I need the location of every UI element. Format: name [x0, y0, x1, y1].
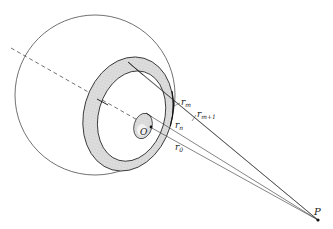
label-origin: O	[140, 127, 148, 137]
fresnel-zone-diagram: rm rm+1 rn r0 O P	[0, 0, 333, 229]
label-r-m1: rm+1	[197, 109, 216, 120]
ray-r-0	[150, 127, 318, 220]
label-r-0: r0	[175, 142, 183, 153]
fresnel-zone-ring	[70, 46, 187, 182]
ray-r-n	[152, 117, 318, 220]
ray-r-m1	[143, 75, 318, 220]
label-r-m: rm	[181, 97, 191, 108]
label-point-p: P	[313, 206, 321, 217]
label-r-n: rn	[175, 120, 183, 131]
origin-point	[150, 126, 153, 129]
observation-point	[316, 218, 319, 221]
